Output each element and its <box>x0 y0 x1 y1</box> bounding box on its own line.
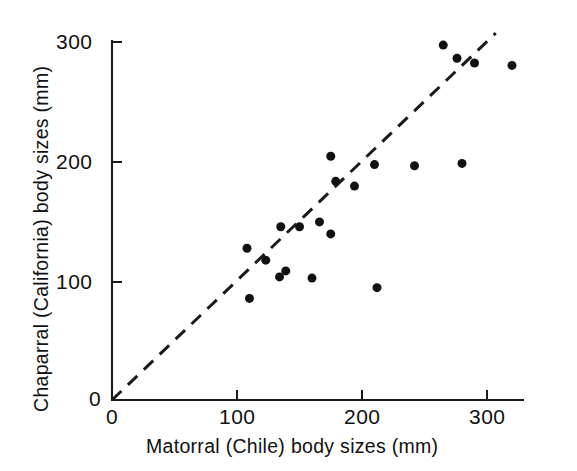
x-tick-label-200: 200 <box>344 406 381 427</box>
data-point <box>453 54 462 63</box>
x-tick-label-100: 100 <box>219 406 256 427</box>
y-tick-label-300: 300 <box>56 31 93 52</box>
y-axis-ticks <box>112 42 122 282</box>
data-point <box>350 182 359 191</box>
y-tick-label-100: 100 <box>56 271 93 292</box>
data-point <box>373 283 382 292</box>
data-point <box>331 177 340 186</box>
plot-canvas <box>0 0 577 471</box>
x-tick-label-0: 0 <box>106 406 118 427</box>
y-tick-label-0: 0 <box>89 388 101 409</box>
data-point <box>410 161 419 170</box>
y-tick-label-200: 200 <box>56 151 93 172</box>
data-point <box>326 152 335 161</box>
data-point <box>261 256 270 265</box>
x-tick-label-300: 300 <box>469 406 506 427</box>
data-points-group <box>243 41 517 303</box>
data-point <box>295 222 304 231</box>
data-point <box>243 244 252 253</box>
data-point <box>245 294 254 303</box>
y-axis-title: Chaparral (California) body sizes (mm) <box>32 66 52 412</box>
data-point <box>276 222 285 231</box>
scatter-plot-figure: 300 200 100 0 0 100 200 300 Chaparral (C… <box>0 0 577 471</box>
x-axis-ticks <box>237 390 487 400</box>
data-point <box>315 217 324 226</box>
data-point <box>308 274 317 283</box>
data-point <box>439 41 448 50</box>
data-point <box>508 61 517 70</box>
data-point <box>370 160 379 169</box>
one-to-one-dashed-line <box>112 33 496 400</box>
data-point <box>281 266 290 275</box>
reference-line-group <box>112 33 496 400</box>
data-point <box>458 159 467 168</box>
data-point <box>470 59 479 68</box>
data-point <box>326 229 335 238</box>
x-axis-title: Matorral (Chile) body sizes (mm) <box>146 437 438 457</box>
